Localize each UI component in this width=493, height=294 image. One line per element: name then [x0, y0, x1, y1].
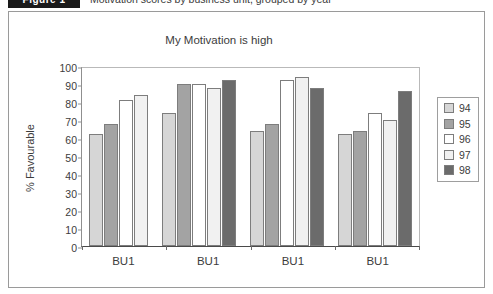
y-tick-label: 90: [65, 80, 77, 92]
chart-title: My Motivation is high: [9, 34, 429, 46]
bar: [192, 84, 206, 246]
figure-number-tag: Figure 1: [8, 0, 80, 8]
legend-item[interactable]: 95: [444, 119, 471, 130]
x-tick-mark: [251, 246, 252, 250]
x-tick-mark: [166, 246, 167, 250]
plot-area: 1009080706050403020100: [81, 67, 420, 247]
y-tick-label: 50: [65, 152, 77, 164]
bar: [89, 134, 103, 246]
legend-swatch: [444, 103, 454, 113]
legend-swatch: [444, 134, 454, 144]
bar: [222, 80, 236, 246]
y-tick-label: 10: [65, 224, 77, 236]
y-tick-label: 30: [65, 188, 77, 200]
chart-legend: 9495969798: [437, 97, 479, 182]
x-axis-label: BU1: [173, 255, 243, 267]
bar: [104, 124, 118, 246]
bar: [398, 91, 412, 246]
bar: [250, 131, 264, 246]
x-tick-mark: [419, 246, 420, 250]
y-tick-label: 80: [65, 98, 77, 110]
bar: [383, 120, 397, 246]
bar-groups: [82, 68, 419, 246]
legend-label: 95: [459, 119, 471, 130]
legend-label: 98: [459, 165, 471, 176]
bar: [119, 100, 133, 246]
legend-item[interactable]: 94: [444, 103, 471, 114]
legend-item[interactable]: 98: [444, 165, 471, 176]
y-tick-label: 0: [71, 242, 77, 254]
bar: [368, 113, 382, 246]
legend-item[interactable]: 97: [444, 150, 471, 161]
bar: [134, 95, 148, 246]
legend-item[interactable]: 96: [444, 134, 471, 145]
bar: [177, 84, 191, 246]
bar: [338, 134, 352, 246]
bar-group: [89, 68, 148, 246]
bar: [207, 88, 221, 246]
y-tick-label: 20: [65, 206, 77, 218]
x-axis-label: BU1: [88, 255, 158, 267]
x-tick-mark: [335, 246, 336, 250]
figure-caption-strip: Figure 1 Motivation scores by business u…: [0, 0, 493, 9]
bar: [162, 113, 176, 246]
legend-label: 97: [459, 150, 471, 161]
chart-figure-frame: My Motivation is high % Favourable 10090…: [8, 11, 485, 288]
x-axis-label: BU1: [343, 255, 413, 267]
bar: [295, 77, 309, 246]
figure-caption-text: Motivation scores by business unit, grou…: [90, 0, 332, 8]
bar: [353, 131, 367, 246]
x-axis-label: BU1: [258, 255, 328, 267]
x-tick-mark: [82, 246, 83, 250]
y-tick-label: 60: [65, 134, 77, 146]
bar-group: [162, 68, 236, 246]
bar: [265, 124, 279, 246]
y-tick-label: 100: [59, 62, 77, 74]
bar: [310, 88, 324, 246]
y-tick-label: 40: [65, 170, 77, 182]
plot-inner: 1009080706050403020100: [82, 68, 419, 246]
legend-label: 96: [459, 134, 471, 145]
bar: [280, 80, 294, 246]
legend-swatch: [444, 165, 454, 175]
y-tick-label: 70: [65, 116, 77, 128]
y-axis-title: % Favourable: [24, 98, 36, 218]
legend-label: 94: [459, 103, 471, 114]
legend-swatch: [444, 150, 454, 160]
bar-group: [338, 68, 412, 246]
bar-group: [250, 68, 324, 246]
legend-swatch: [444, 119, 454, 129]
